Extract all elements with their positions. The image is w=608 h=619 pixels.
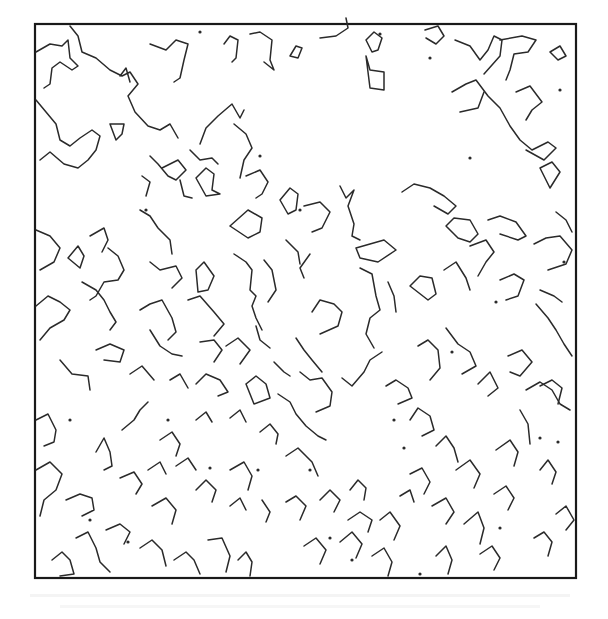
boundary-outline xyxy=(152,498,176,524)
boundary-outline xyxy=(278,394,326,440)
pore-dot xyxy=(88,518,91,521)
pore-dot xyxy=(498,526,501,529)
boundary-outline xyxy=(238,552,252,576)
boundary-outline xyxy=(246,376,270,404)
boundary-outline xyxy=(246,170,268,198)
boundary-outline xyxy=(456,460,480,488)
boundary-outline xyxy=(348,512,372,532)
boundary-outline xyxy=(226,338,250,364)
pore-dot xyxy=(556,440,559,443)
boundary-outline xyxy=(534,236,572,270)
pore-dot xyxy=(208,466,211,469)
boundary-outline xyxy=(300,254,310,278)
boundary-outline xyxy=(356,240,396,262)
pore-dot xyxy=(562,260,565,263)
pore-dot xyxy=(144,208,147,211)
boundary-outline xyxy=(90,228,108,252)
boundary-outline xyxy=(196,480,216,502)
boundary-outline xyxy=(60,360,90,390)
boundary-outline xyxy=(36,40,78,88)
pore-dot xyxy=(402,446,405,449)
boundary-outline xyxy=(526,382,570,410)
boundary-outline xyxy=(350,480,366,500)
boundary-outline xyxy=(36,462,62,516)
microstructure-figure xyxy=(0,0,608,619)
boundary-outline xyxy=(500,36,536,80)
boundary-outline xyxy=(264,260,276,302)
boundary-outline xyxy=(304,202,330,232)
boundary-outline xyxy=(130,366,154,380)
boundary-outline xyxy=(230,462,252,490)
boundary-outline xyxy=(366,56,384,90)
isolated-pore-dots xyxy=(68,30,565,575)
pore-dot xyxy=(468,156,471,159)
pore-dot xyxy=(538,436,541,439)
boundary-outline xyxy=(286,448,318,476)
boundary-outline xyxy=(110,124,124,140)
boundary-outline xyxy=(142,176,150,196)
boundary-outline xyxy=(170,374,188,388)
boundary-outline xyxy=(70,26,178,138)
boundary-outline xyxy=(464,512,484,544)
pore-dot xyxy=(558,88,561,91)
boundary-outline xyxy=(320,18,348,38)
boundary-outline xyxy=(516,86,542,120)
boundary-outline xyxy=(196,412,212,422)
boundary-outline xyxy=(418,340,440,380)
boundary-outline xyxy=(425,26,444,44)
boundary-outline xyxy=(96,438,112,470)
boundary-outline xyxy=(432,498,454,524)
boundary-outline xyxy=(436,546,452,574)
pore-dot xyxy=(428,56,431,59)
boundary-outline xyxy=(508,350,532,376)
boundary-outline xyxy=(150,40,188,82)
boundary-outline xyxy=(190,150,218,164)
pore-dot xyxy=(298,208,301,211)
boundary-outline xyxy=(234,254,262,330)
boundary-outline xyxy=(455,36,502,74)
boundary-outline xyxy=(188,296,224,336)
boundary-outline xyxy=(494,486,514,510)
boundary-outline xyxy=(540,460,556,484)
boundary-outline xyxy=(446,218,478,242)
boundary-outline xyxy=(500,274,524,300)
boundary-outline xyxy=(488,216,526,240)
boundary-outline xyxy=(280,188,298,214)
pore-dot xyxy=(328,536,331,539)
boundary-outline xyxy=(536,304,572,356)
pore-dot xyxy=(378,32,381,35)
pore-dot xyxy=(68,418,71,421)
boundary-outline xyxy=(410,468,430,494)
pore-dot xyxy=(166,418,169,421)
boundary-outline xyxy=(260,424,278,444)
boundary-outline xyxy=(36,414,56,446)
boundary-outline xyxy=(106,524,130,544)
pore-dot xyxy=(258,154,261,157)
boundary-outline xyxy=(160,432,180,456)
boundary-outline xyxy=(540,290,562,302)
boundary-outline xyxy=(90,248,124,300)
boundary-outline xyxy=(196,374,228,396)
boundary-outline xyxy=(410,276,436,300)
boundary-outline xyxy=(446,328,476,374)
boundary-outline xyxy=(380,512,400,540)
boundary-outline xyxy=(36,296,70,340)
boundary-outline xyxy=(274,362,290,376)
boundary-outline xyxy=(140,540,166,566)
boundary-outline xyxy=(402,184,456,214)
boundary-outline xyxy=(96,344,124,362)
boundary-outline xyxy=(480,546,500,570)
boundary-outline xyxy=(176,458,196,470)
boundary-outline xyxy=(296,338,322,372)
boundary-outline xyxy=(300,372,332,412)
boundary-outline xyxy=(148,462,166,474)
boundary-outline xyxy=(208,538,230,572)
boundary-outline xyxy=(320,490,340,512)
boundary-outline xyxy=(234,124,252,178)
boundary-outline xyxy=(200,104,244,144)
boundary-outline xyxy=(76,532,110,572)
boundary-outline xyxy=(460,92,484,112)
boundary-outline xyxy=(200,340,222,362)
boundary-outline xyxy=(452,80,556,160)
boundary-outline xyxy=(342,352,382,386)
